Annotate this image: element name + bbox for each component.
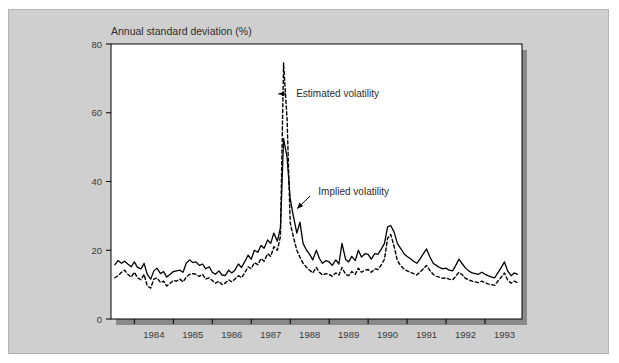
x-axis-tick-label: 1993 bbox=[494, 329, 515, 340]
x-axis-tick-label: 1987 bbox=[260, 329, 281, 340]
y-axis-tick-label: 0 bbox=[97, 314, 102, 325]
x-axis-tick-label: 1991 bbox=[416, 329, 437, 340]
y-axis-title: Annual standard deviation (%) bbox=[111, 25, 252, 37]
x-axis-tick-label: 1984 bbox=[143, 329, 164, 340]
annotation-label: Implied volatility bbox=[318, 186, 389, 197]
x-axis-tick-label: 1992 bbox=[455, 329, 476, 340]
x-axis-tick-label: 1986 bbox=[221, 329, 242, 340]
x-axis-tick-label: 1988 bbox=[299, 329, 320, 340]
y-axis: 020406080 bbox=[91, 39, 111, 325]
figure-container: 020406080 198419851986198719881989199019… bbox=[0, 0, 619, 363]
plot-area-background bbox=[111, 44, 522, 319]
annotation-label: Estimated volatility bbox=[296, 88, 379, 99]
x-axis-tick-label: 1990 bbox=[377, 329, 398, 340]
x-axis-tick-label: 1985 bbox=[182, 329, 203, 340]
y-axis-tick-label: 80 bbox=[91, 39, 102, 50]
y-axis-tick-label: 60 bbox=[91, 107, 102, 118]
x-axis-tick-label: 1989 bbox=[338, 329, 359, 340]
y-axis-tick-label: 40 bbox=[91, 176, 102, 187]
y-axis-tick-label: 20 bbox=[91, 245, 102, 256]
figure-panel: 020406080 198419851986198719881989199019… bbox=[8, 9, 609, 354]
volatility-line-chart: 020406080 198419851986198719881989199019… bbox=[9, 10, 610, 355]
